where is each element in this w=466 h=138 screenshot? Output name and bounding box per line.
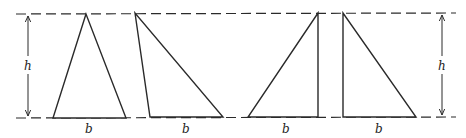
triangle-1: [53, 14, 126, 118]
left-height-label: h: [24, 59, 32, 73]
right-height-label: h: [438, 59, 446, 73]
base-label-3: b: [282, 122, 290, 136]
base-label-2: b: [182, 122, 190, 136]
triangle-3: [248, 13, 318, 117]
triangle-4: [343, 13, 416, 117]
triangle-2: [135, 13, 223, 117]
base-label-1: b: [85, 122, 93, 136]
base-label-4: b: [375, 122, 383, 136]
top-parallel-line: [16, 13, 456, 14]
triangle-area-diagram: h h b b b b: [0, 0, 466, 138]
